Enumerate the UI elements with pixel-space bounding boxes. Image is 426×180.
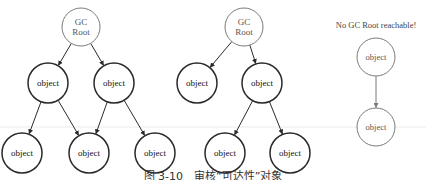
node-label: GC xyxy=(238,17,251,27)
object-node: object xyxy=(205,133,245,173)
node-label: object xyxy=(214,148,236,158)
diagram-canvas: GCRootobjectobjectobjectobjectobjectGCRo… xyxy=(0,0,426,180)
reference-arrow xyxy=(124,100,145,135)
object-node: object xyxy=(177,63,217,103)
node-label: object xyxy=(11,148,33,158)
reference-arrow xyxy=(58,43,71,65)
nodes-layer: GCRootobjectobjectobjectobjectobjectGCRo… xyxy=(2,8,395,173)
reference-arrow xyxy=(29,102,41,134)
object-node: object xyxy=(270,133,310,173)
node-label: Root xyxy=(235,27,253,37)
reference-arrow xyxy=(96,102,107,134)
object-node: object xyxy=(2,133,42,173)
labels-layer: No GC Root reachable! xyxy=(336,20,417,30)
reference-arrow xyxy=(210,42,232,68)
reference-arrow xyxy=(58,100,79,135)
node-label: object xyxy=(366,122,387,132)
object-node: object xyxy=(28,63,68,103)
node-label: object xyxy=(279,148,301,158)
node-label: object xyxy=(37,78,59,88)
reference-arrow xyxy=(269,102,282,134)
gc-root-node: GCRoot xyxy=(225,8,263,46)
node-label: object xyxy=(251,78,273,88)
reference-arrow xyxy=(235,101,253,135)
node-label: object xyxy=(78,148,100,158)
node-label: object xyxy=(186,78,208,88)
node-label: object xyxy=(366,52,387,62)
gc-reachability-diagram: GCRootobjectobjectobjectobjectobjectGCRo… xyxy=(0,0,426,180)
object-node: object xyxy=(242,63,282,103)
reference-arrow xyxy=(250,45,256,63)
object-node: object xyxy=(135,133,175,173)
object-node: object xyxy=(357,38,395,76)
object-node: object xyxy=(94,63,134,103)
node-label: Root xyxy=(72,27,90,37)
gc-root-node: GCRoot xyxy=(62,8,100,46)
reference-arrow xyxy=(91,43,104,65)
unreachable-title: No GC Root reachable! xyxy=(336,20,417,30)
object-node: object xyxy=(357,108,395,146)
node-label: GC xyxy=(75,17,88,27)
figure-caption: 图 3-10 审核“可达性”对象 xyxy=(0,171,426,180)
object-node: object xyxy=(69,133,109,173)
node-label: object xyxy=(103,78,125,88)
node-label: object xyxy=(144,148,166,158)
